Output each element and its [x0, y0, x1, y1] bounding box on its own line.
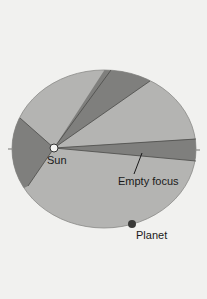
orbit-figure	[0, 0, 207, 299]
sun-icon	[50, 144, 58, 152]
sun-label: Sun	[47, 155, 67, 166]
planet-label: Planet	[136, 230, 167, 241]
planet-icon	[128, 220, 136, 228]
kepler-orbit-diagram: Sun Empty focus Planet	[0, 0, 207, 299]
empty-focus-label: Empty focus	[118, 176, 179, 187]
